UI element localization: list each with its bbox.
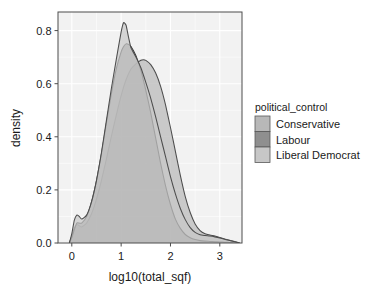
legend-label: Conservative bbox=[276, 118, 340, 130]
x-tick-label: 3 bbox=[217, 250, 223, 262]
plot-panel bbox=[47, 12, 244, 243]
legend-item[interactable]: Labour bbox=[255, 132, 311, 148]
y-tick-label: 0.6 bbox=[36, 78, 51, 90]
x-axis-label: log10(total_sqf) bbox=[109, 270, 192, 284]
y-tick-label: 0.4 bbox=[36, 131, 51, 143]
y-tick-label: 0.2 bbox=[36, 184, 51, 196]
legend-label: Liberal Democrat bbox=[276, 149, 360, 161]
y-tick-label: 0.0 bbox=[36, 237, 51, 249]
x-tick-label: 0 bbox=[69, 250, 75, 262]
y-axis-label: density bbox=[9, 109, 23, 147]
legend-item[interactable]: Conservative bbox=[255, 116, 340, 132]
density-plot-figure: 0.00.20.40.60.8 0123 density log10(total… bbox=[0, 0, 375, 294]
legend-title: political_control bbox=[255, 101, 327, 113]
legend-swatch bbox=[255, 132, 270, 148]
legend-swatch bbox=[255, 116, 270, 132]
legend-label: Labour bbox=[276, 134, 311, 146]
x-tick-label: 1 bbox=[118, 250, 124, 262]
y-tick-label: 0.8 bbox=[36, 25, 51, 37]
x-tick-label: 2 bbox=[167, 250, 173, 262]
legend-swatch bbox=[255, 147, 270, 163]
